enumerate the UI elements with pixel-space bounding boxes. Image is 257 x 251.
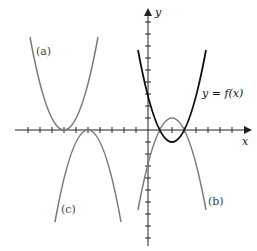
y-axis-label: y xyxy=(154,6,162,19)
graph-figure: x y (a) (c) (b) xyxy=(0,0,257,251)
x-axis-label: x xyxy=(242,135,249,148)
x-axis: x xyxy=(15,127,250,148)
curve-f-label: y = f(x) xyxy=(201,87,243,100)
curve-a-label: (a) xyxy=(36,45,51,58)
curve-c-label: (c) xyxy=(61,203,76,216)
y-axis: y xyxy=(145,6,162,246)
curve-b-label: (b) xyxy=(208,195,224,208)
